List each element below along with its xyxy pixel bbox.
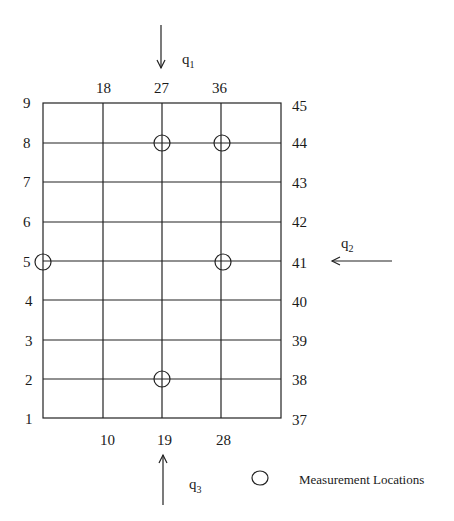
- node-label: 4: [25, 294, 33, 309]
- node-label: 5: [23, 255, 31, 270]
- node-label: 28: [216, 433, 231, 448]
- flow-label-q2: q2: [341, 236, 354, 256]
- node-label: 41: [292, 256, 307, 271]
- node-label: 9: [23, 96, 31, 111]
- node-label: 7: [23, 175, 31, 190]
- measurement-markers: [35, 135, 268, 485]
- legend-label: Measurement Locations: [299, 473, 424, 486]
- node-label: 2: [25, 373, 33, 388]
- node-label: 18: [96, 81, 111, 96]
- flow-label-q1: q1: [182, 52, 195, 72]
- node-label: 43: [292, 176, 307, 191]
- node-label: 42: [292, 215, 307, 230]
- node-label: 1: [25, 412, 33, 427]
- node-label: 3: [25, 334, 33, 349]
- node-label: 19: [157, 433, 172, 448]
- node-label: 8: [23, 136, 31, 151]
- node-label: 27: [154, 81, 169, 96]
- node-label: 40: [292, 295, 307, 310]
- node-label: 38: [292, 373, 307, 388]
- node-label: 6: [23, 215, 31, 230]
- node-label: 44: [292, 136, 307, 151]
- node-label: 45: [292, 99, 307, 114]
- node-label: 39: [292, 334, 307, 349]
- legend-circle-icon: [252, 471, 268, 485]
- flow-label-q3: q3: [189, 477, 202, 497]
- node-label: 10: [100, 433, 115, 448]
- node-label: 37: [292, 413, 307, 428]
- measurement-circle-icon: [215, 254, 231, 270]
- node-label: 36: [212, 81, 227, 96]
